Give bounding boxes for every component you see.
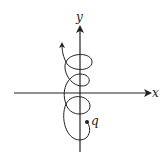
particle-dot [85, 120, 89, 124]
trajectory-diagram: y x q [0, 0, 167, 159]
x-axis-label: x [152, 86, 159, 100]
y-axis-label: y [75, 10, 83, 24]
particle-label: q [91, 114, 99, 128]
particle-trajectory [62, 44, 92, 140]
